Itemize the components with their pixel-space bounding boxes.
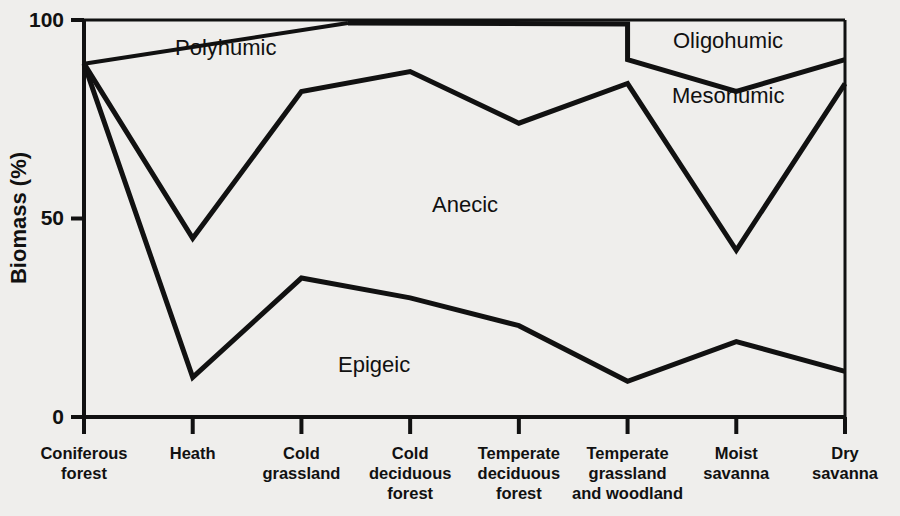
region-label-oligohumic: Oligohumic	[673, 28, 783, 53]
x-axis-ticks	[84, 417, 845, 434]
region-label-anecic: Anecic	[432, 192, 498, 217]
x-category-label: grassland	[262, 464, 340, 482]
region-label-epigeic: Epigeic	[338, 352, 410, 377]
region-label-mesohumic: Mesohumic	[672, 83, 784, 108]
y-axis-title: Biomass (%)	[6, 152, 31, 284]
y-tick-label: 100	[29, 8, 64, 31]
x-category-label: and woodland	[572, 484, 683, 502]
x-category-label: deciduous	[369, 464, 452, 482]
x-category-label: grassland	[589, 464, 667, 482]
x-category-label: Moist	[715, 444, 759, 462]
biomass-chart: 050100 Biomass (%) ConiferousforestHeath…	[0, 0, 900, 516]
x-category-label: Heath	[170, 444, 216, 462]
chart-canvas: 050100 Biomass (%) ConiferousforestHeath…	[0, 0, 900, 516]
y-axis-tick-labels: 050100	[29, 8, 64, 428]
x-category-label: Dry	[831, 444, 859, 462]
y-tick-label: 0	[52, 405, 64, 428]
y-axis-title-group: Biomass (%)	[6, 152, 31, 284]
x-category-label: forest	[61, 464, 107, 482]
x-category-label: Temperate	[478, 444, 560, 462]
y-tick-label: 50	[41, 206, 64, 229]
x-category-label: Cold	[283, 444, 320, 462]
series-line-epigeic-boundary	[84, 64, 845, 382]
x-category-label: forest	[496, 484, 542, 502]
x-category-label: forest	[387, 484, 433, 502]
x-category-label: Temperate	[586, 444, 668, 462]
x-axis-category-labels: ConiferousforestHeathColdgrasslandColdde…	[40, 444, 878, 502]
x-category-label: deciduous	[478, 464, 561, 482]
region-label-polyhumic: Polyhumic	[175, 35, 276, 60]
x-category-label: savanna	[703, 464, 770, 482]
x-category-label: savanna	[812, 464, 879, 482]
x-category-label: Cold	[392, 444, 429, 462]
x-category-label: Coniferous	[40, 444, 127, 462]
plot-frame	[84, 20, 845, 417]
